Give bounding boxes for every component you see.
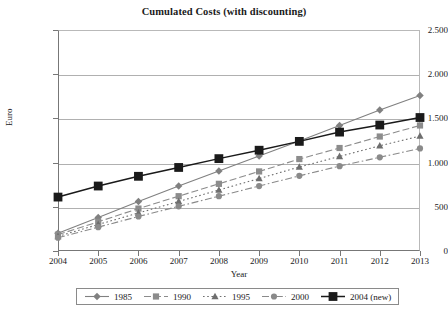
series-line (58, 118, 420, 198)
data-point-marker (377, 133, 383, 139)
x-tick-mark (340, 251, 341, 256)
legend-label: 2004 (new) (350, 292, 391, 302)
x-tick-label: 2007 (157, 256, 201, 266)
data-point-marker (153, 293, 159, 299)
data-point-marker (416, 132, 423, 139)
data-point-marker (375, 121, 384, 130)
data-point-marker (54, 193, 63, 202)
legend-swatch-triangle-icon (202, 291, 228, 302)
data-point-marker (417, 145, 423, 151)
legend-label: 2000 (291, 292, 309, 302)
data-point-marker (256, 175, 263, 182)
x-tick-mark (219, 251, 220, 256)
x-tick-label: 2012 (358, 256, 402, 266)
data-point-marker (216, 193, 222, 199)
data-point-marker (135, 198, 142, 205)
data-point-marker (215, 167, 222, 174)
x-tick-label: 2009 (237, 256, 281, 266)
x-tick-label: 2011 (318, 256, 362, 266)
x-tick-label: 2010 (277, 256, 321, 266)
data-point-marker (271, 293, 277, 299)
x-tick-mark (299, 251, 300, 256)
data-point-marker (135, 213, 141, 219)
data-point-marker (216, 181, 222, 187)
x-tick-mark (380, 251, 381, 256)
data-point-marker (214, 154, 223, 163)
x-tick-mark (420, 251, 421, 256)
data-point-marker (175, 182, 182, 189)
data-point-marker (134, 172, 143, 181)
legend-item-1985[interactable]: 1985 (84, 291, 132, 302)
legend-swatch-filled-square-icon (320, 291, 346, 302)
series-2000 (55, 145, 423, 240)
x-tick-label: 2008 (197, 256, 241, 266)
data-point-marker (336, 145, 342, 151)
legend-label: 1985 (114, 292, 132, 302)
series-1985 (54, 92, 423, 237)
x-tick-mark (138, 251, 139, 256)
x-tick-mark (58, 251, 59, 256)
series-line (58, 136, 420, 236)
x-tick-label: 2006 (116, 256, 160, 266)
chart-legend: 19851990199520002004 (new) (76, 288, 399, 305)
series-2004-new- (54, 113, 425, 201)
data-point-marker (256, 168, 262, 174)
data-point-marker (296, 173, 302, 179)
data-point-marker (176, 203, 182, 209)
data-point-marker (93, 293, 100, 300)
data-point-marker (417, 122, 423, 128)
chart-container: Cumulated Costs (with discounting) 05001… (0, 0, 448, 315)
series-1990 (55, 122, 423, 237)
data-point-marker (336, 163, 342, 169)
x-tick-mark (98, 251, 99, 256)
legend-item-1995[interactable]: 1995 (202, 291, 250, 302)
data-point-marker (416, 92, 423, 99)
data-point-marker (295, 137, 304, 146)
x-tick-label: 2004 (36, 256, 80, 266)
series-line (58, 148, 420, 237)
x-axis-title: Year (58, 269, 420, 279)
data-point-marker (416, 113, 425, 122)
data-point-marker (215, 186, 222, 193)
series-1995 (54, 132, 423, 239)
x-tick-label: 2013 (398, 256, 442, 266)
data-point-marker (296, 163, 303, 170)
data-point-marker (376, 106, 383, 113)
x-tick-mark (259, 251, 260, 256)
data-point-marker (335, 128, 344, 137)
data-point-marker (55, 235, 61, 241)
series-plot-layer (58, 30, 420, 251)
legend-swatch-square-icon (143, 291, 169, 302)
legend-label: 1990 (173, 292, 191, 302)
chart-title: Cumulated Costs (with discounting) (0, 6, 448, 17)
data-point-marker (255, 146, 264, 155)
series-line (58, 95, 420, 233)
data-point-marker (94, 182, 103, 191)
legend-item-2004-new-[interactable]: 2004 (new) (320, 291, 391, 302)
data-point-marker (329, 292, 338, 301)
x-tick-mark (179, 251, 180, 256)
x-tick-label: 2005 (76, 256, 120, 266)
legend-swatch-circle-icon (261, 291, 287, 302)
data-point-marker (377, 154, 383, 160)
series-line (58, 125, 420, 234)
legend-label: 1995 (232, 292, 250, 302)
data-point-marker (95, 224, 101, 230)
legend-item-1990[interactable]: 1990 (143, 291, 191, 302)
legend-swatch-diamond-icon (84, 291, 110, 302)
data-point-marker (256, 183, 262, 189)
y-axis-title: Euro (4, 109, 14, 127)
data-point-marker (296, 156, 302, 162)
legend-item-2000[interactable]: 2000 (261, 291, 309, 302)
data-point-marker (174, 163, 183, 172)
